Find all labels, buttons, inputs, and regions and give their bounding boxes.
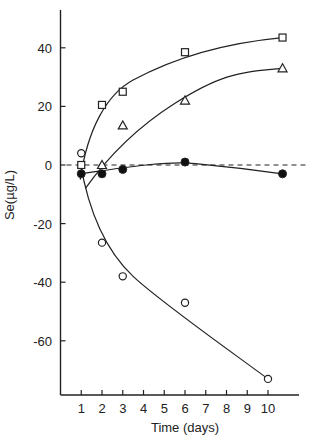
open-triangles-marker bbox=[278, 64, 287, 72]
x-tick-label: 7 bbox=[202, 401, 209, 416]
x-tick-label: 5 bbox=[161, 401, 168, 416]
x-tick-label: 10 bbox=[261, 401, 275, 416]
x-tick-label: 4 bbox=[140, 401, 147, 416]
y-tick-label: 20 bbox=[38, 99, 52, 114]
y-tick-label: 40 bbox=[38, 41, 52, 56]
open-triangles-marker bbox=[118, 121, 127, 129]
open-circles-marker bbox=[78, 150, 85, 157]
y-tick-label: 0 bbox=[45, 158, 52, 173]
data-markers bbox=[77, 34, 287, 382]
filled-circles-marker bbox=[98, 170, 106, 178]
open-squares-marker bbox=[99, 101, 106, 108]
y-tick-label: -60 bbox=[33, 334, 52, 349]
x-tick-label: 1 bbox=[78, 401, 85, 416]
y-tick-label: -40 bbox=[33, 275, 52, 290]
x-tick-label: 2 bbox=[98, 401, 105, 416]
filled-circles-marker bbox=[119, 165, 127, 173]
open-squares-marker bbox=[279, 34, 286, 41]
x-tick-label: 8 bbox=[223, 401, 230, 416]
open-circles-marker bbox=[264, 375, 271, 382]
x-axis-title: Time (days) bbox=[151, 420, 219, 435]
y-tick-label: -20 bbox=[33, 217, 52, 232]
open-circles-marker bbox=[98, 239, 105, 246]
open-circles-curve bbox=[80, 162, 268, 379]
open-squares-marker bbox=[78, 162, 85, 169]
open-triangles-marker bbox=[181, 96, 190, 104]
x-tick-label: 6 bbox=[181, 401, 188, 416]
y-axis-title: Se(µg/L) bbox=[2, 170, 17, 220]
open-circles-marker bbox=[119, 273, 126, 280]
open-squares-marker bbox=[182, 49, 189, 56]
open-squares-marker bbox=[119, 88, 126, 95]
filled-circles-marker bbox=[279, 170, 287, 178]
open-squares-curve bbox=[80, 38, 282, 180]
x-tick-label: 9 bbox=[244, 401, 251, 416]
x-tick-label: 3 bbox=[119, 401, 126, 416]
fit-curves bbox=[80, 38, 282, 379]
open-circles-marker bbox=[181, 299, 188, 306]
axes: 40200-20-40-6012345678910 bbox=[33, 10, 306, 416]
filled-circles-marker bbox=[77, 170, 85, 178]
filled-circles-marker bbox=[181, 158, 189, 166]
chart: 40200-20-40-6012345678910 Time (days) Se… bbox=[0, 0, 313, 442]
